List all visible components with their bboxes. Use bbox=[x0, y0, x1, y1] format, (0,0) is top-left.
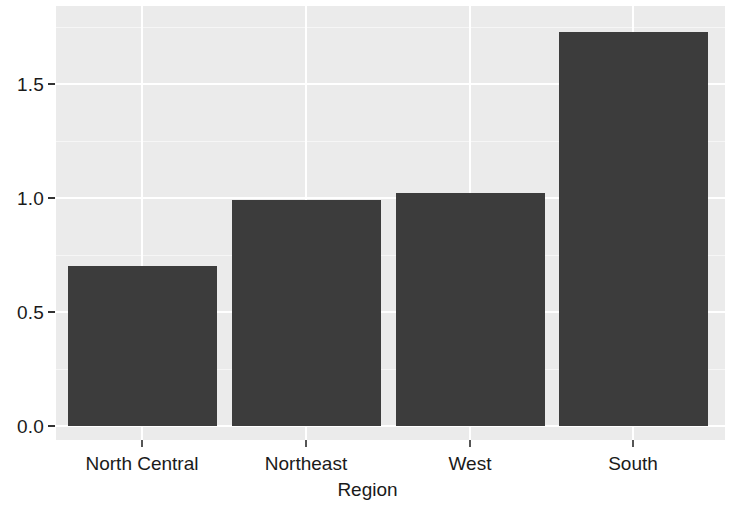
bar[interactable] bbox=[559, 32, 708, 426]
bar[interactable] bbox=[232, 200, 381, 426]
x-tick-label: Northeast bbox=[265, 454, 347, 473]
y-tick-label: 0.5 bbox=[0, 303, 44, 322]
y-tick-label: 0.0 bbox=[0, 417, 44, 436]
x-tick-label: South bbox=[608, 454, 658, 473]
y-tick-label: 1.0 bbox=[0, 189, 44, 208]
bar-chart: 0.00.51.01.5 North CentralNortheastWestS… bbox=[0, 0, 735, 508]
bar[interactable] bbox=[68, 266, 217, 426]
x-axis-title: Region bbox=[0, 480, 735, 499]
gridline-minor-horizontal bbox=[56, 27, 725, 28]
x-tick-mark bbox=[305, 440, 307, 447]
x-tick-mark bbox=[469, 440, 471, 447]
x-tick-mark bbox=[141, 440, 143, 447]
x-tick-label: North Central bbox=[86, 454, 199, 473]
y-tick-mark bbox=[48, 311, 55, 313]
x-tick-label: West bbox=[449, 454, 492, 473]
y-tick-label: 1.5 bbox=[0, 75, 44, 94]
bar[interactable] bbox=[396, 193, 545, 426]
plot-panel bbox=[56, 6, 725, 440]
x-tick-mark bbox=[632, 440, 634, 447]
y-tick-mark bbox=[48, 425, 55, 427]
y-tick-mark bbox=[48, 83, 55, 85]
y-tick-mark bbox=[48, 197, 55, 199]
